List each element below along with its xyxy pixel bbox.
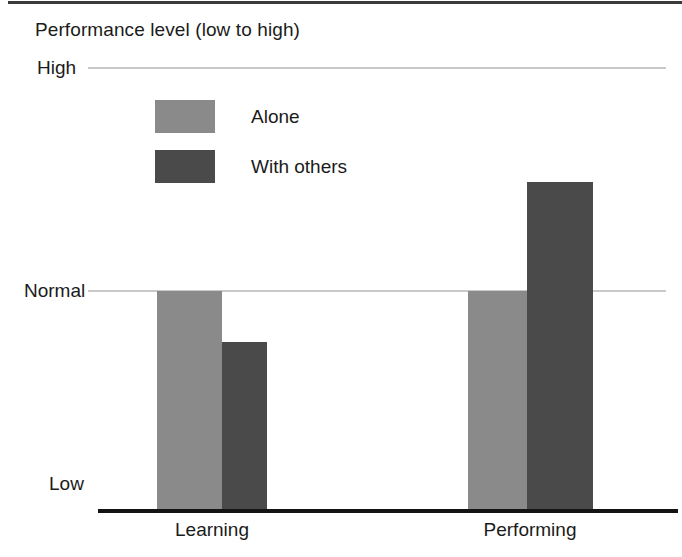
y-axis-tick-high: High [37,57,76,79]
x-axis-tick-learning: Learning [142,519,282,541]
legend-swatch-alone [155,100,215,133]
bar-performing-alone [468,291,527,512]
x-axis-tick-performing: Performing [460,519,600,541]
x-axis-baseline [98,509,678,513]
bar-chart-figure: Performance level (low to high) High Nor… [0,0,682,557]
y-axis-tick-normal: Normal [24,280,85,302]
y-axis-tick-low: Low [49,473,84,495]
legend-item-alone: Alone [155,100,347,133]
bar-performing-with-others [527,182,593,512]
gridline-high [88,67,666,69]
chart-legend: Alone With others [155,100,347,200]
legend-swatch-with-others [155,150,215,183]
bar-learning-alone [157,291,222,512]
legend-label-alone: Alone [251,106,300,128]
bar-learning-with-others [222,342,267,512]
legend-label-with-others: With others [251,156,347,178]
page-top-rule [8,1,682,4]
legend-item-with-others: With others [155,150,347,183]
chart-title: Performance level (low to high) [35,19,300,41]
